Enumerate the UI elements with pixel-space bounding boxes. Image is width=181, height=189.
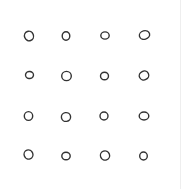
- circle-icon-r3-c1: [62, 152, 70, 160]
- circle-icon-r0-c0: [23, 30, 35, 42]
- circle-icon-r3-c2: [99, 150, 111, 162]
- circle-icon-r1-c0: [25, 71, 34, 79]
- circle-icon-r3-c0: [23, 149, 34, 161]
- circle-icon-r2-c3: [139, 112, 149, 120]
- circle-icon-r0-c2: [101, 32, 109, 39]
- circle-icon-r1-c1: [62, 71, 72, 80]
- drawing-canvas: [0, 0, 181, 189]
- circle-icon-r3-c3: [140, 152, 148, 160]
- right-edge-line: [180, 0, 181, 189]
- circle-grid: [0, 0, 181, 189]
- circle-icon-r2-c1: [61, 112, 72, 122]
- circle-icon-r0-c3: [138, 30, 150, 41]
- circle-icon-r0-c1: [62, 32, 70, 40]
- circle-icon-r1-c2: [101, 72, 109, 80]
- circle-icon-r2-c0: [24, 112, 32, 121]
- circle-icon-r1-c3: [138, 69, 150, 81]
- circle-icon-r2-c2: [100, 112, 108, 120]
